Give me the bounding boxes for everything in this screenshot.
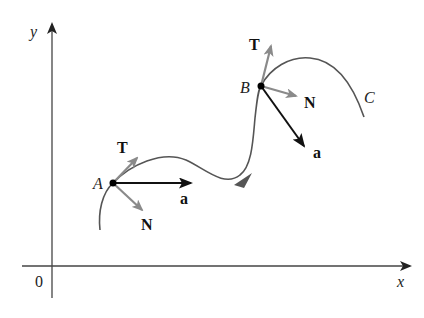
tangent-vector-b xyxy=(261,46,271,86)
point-b-label: B xyxy=(240,79,250,96)
curve-c xyxy=(100,58,364,230)
curve-direction-arrow xyxy=(234,173,252,188)
point-a xyxy=(110,180,117,187)
normal-vector-a xyxy=(113,183,142,210)
acceleration-label-a: a xyxy=(180,190,188,207)
curve-diagram: y x 0 C A T N a B T N a xyxy=(0,0,424,318)
y-axis-label: y xyxy=(28,23,38,41)
point-b xyxy=(258,83,265,90)
origin-label: 0 xyxy=(35,273,43,290)
acceleration-label-b: a xyxy=(313,144,321,161)
tangent-label-b: T xyxy=(249,36,260,53)
point-a-group: A T N a xyxy=(92,139,191,233)
normal-label-b: N xyxy=(304,94,316,111)
acceleration-vector-b xyxy=(261,86,304,146)
x-axis-label: x xyxy=(396,273,404,290)
tangent-vector-a xyxy=(113,158,137,183)
curve-label-c: C xyxy=(364,89,375,106)
tangent-label-a: T xyxy=(117,139,128,156)
point-a-label: A xyxy=(92,175,103,192)
normal-label-a: N xyxy=(141,216,153,233)
